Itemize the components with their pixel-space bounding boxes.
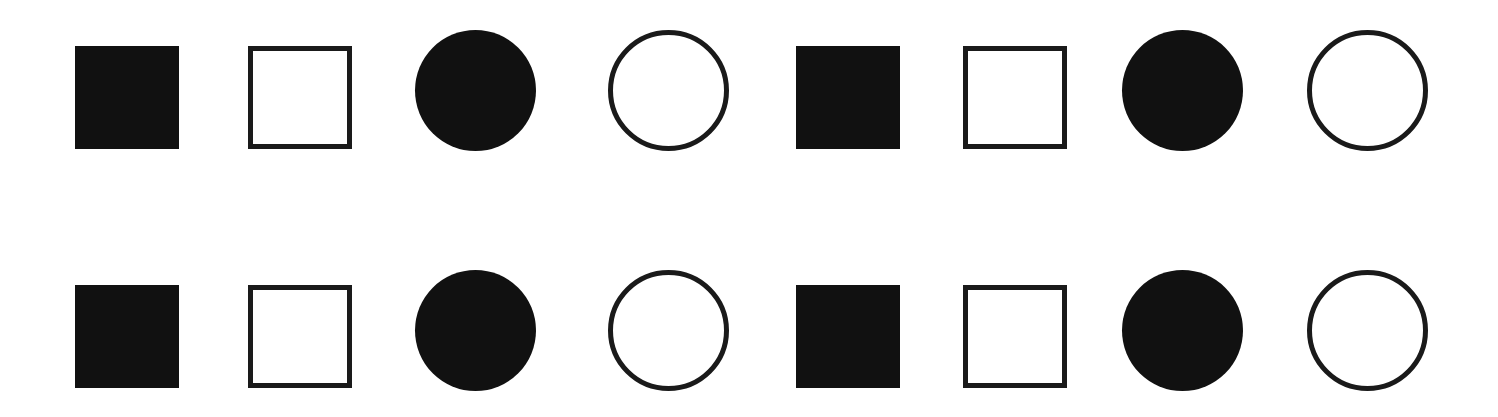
outline-square-icon — [248, 46, 352, 149]
outline-circle-icon — [608, 30, 729, 151]
filled-circle-icon — [1122, 30, 1243, 151]
filled-circle-icon — [415, 30, 536, 151]
filled-square-icon — [796, 46, 900, 149]
outline-square-icon — [963, 46, 1067, 149]
outline-circle-icon — [608, 270, 729, 391]
outline-circle-icon — [1307, 270, 1428, 391]
filled-square-icon — [75, 46, 179, 149]
filled-square-icon — [796, 285, 900, 388]
outline-square-icon — [248, 285, 352, 388]
filled-circle-icon — [415, 270, 536, 391]
outline-circle-icon — [1307, 30, 1428, 151]
filled-square-icon — [75, 285, 179, 388]
filled-circle-icon — [1122, 270, 1243, 391]
outline-square-icon — [963, 285, 1067, 388]
